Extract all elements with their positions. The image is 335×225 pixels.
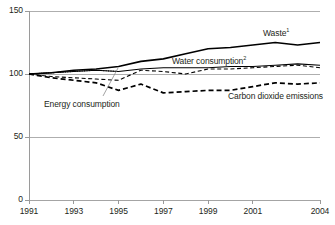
x-axis-label-1999: 1999 — [188, 206, 228, 216]
x-axis-label-1991: 1991 — [9, 206, 49, 216]
y-axis-label-150: 150 — [0, 5, 23, 15]
annotation-leader-lines — [103, 68, 118, 96]
series-annotation-text: Waste — [263, 28, 286, 38]
series-annotation-text: Water consumption — [172, 56, 243, 66]
x-axis-label-1997: 1997 — [143, 206, 183, 216]
x-axis-label-2001: 2001 — [233, 206, 273, 216]
series-annotation-text: Carbon dioxide emissions — [228, 91, 323, 101]
x-axis-label-1995: 1995 — [99, 206, 139, 216]
series-annotation-footnote-marker: 2 — [243, 55, 246, 61]
energy-consumption-leader-line — [103, 68, 118, 96]
series-annotation-footnote-marker: 1 — [286, 27, 289, 33]
y-axis-label-50: 50 — [0, 131, 23, 141]
series-annotation-energy-consumption: Energy consumption — [44, 99, 120, 109]
x-axis-label-1993: 1993 — [54, 206, 94, 216]
series-annotation-water-consumption: Water consumption2 — [172, 56, 246, 66]
x-axis-label-2004: 2004 — [300, 206, 335, 216]
series-annotation-text: Energy consumption — [44, 99, 120, 109]
series-annotation-carbon-dioxide-emissions: Carbon dioxide emissions — [228, 91, 323, 101]
data-series-lines — [29, 43, 320, 93]
y-axis-label-0: 0 — [0, 194, 23, 204]
series-annotation-waste: Waste1 — [263, 28, 289, 38]
environment-indicators-line-chart: 050100150 1991199319951997199920012004 W… — [0, 0, 335, 225]
y-axis-label-100: 100 — [0, 68, 23, 78]
